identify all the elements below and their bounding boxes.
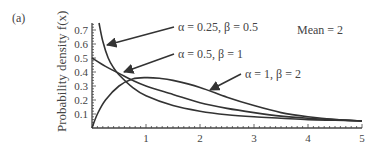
x-tick-label: 1: [143, 132, 149, 144]
y-tick-label: 0.4: [74, 66, 88, 78]
curve-label: α = 1, β = 2: [245, 67, 301, 81]
y-tick-label: 0.6: [74, 38, 88, 50]
y-tick-label: 0.7: [74, 24, 88, 36]
x-tick-label: 5: [359, 132, 365, 144]
y-tick-label: 0.3: [74, 80, 88, 92]
mean-annotation: Mean = 2: [297, 23, 343, 37]
axes: 123450.10.20.30.40.50.60.7: [74, 23, 365, 144]
curve-label: α = 0.5, β = 1: [178, 47, 243, 61]
y-tick-label: 0.1: [74, 108, 88, 120]
arrow-icon: [210, 74, 241, 90]
density-curve: [99, 23, 362, 121]
x-tick-label: 4: [305, 132, 311, 144]
y-axis-label: Probability density f(x): [54, 11, 69, 132]
arrow-icon: [124, 54, 174, 72]
probability-density-chart: (a) Probability density f(x) 123450.10.2…: [0, 0, 379, 151]
x-tick-label: 2: [197, 132, 203, 144]
y-tick-label: 0.5: [74, 52, 88, 64]
curve-label: α = 0.25, β = 0.5: [178, 20, 258, 34]
curve-labels: α = 0.25, β = 0.5α = 0.5, β = 1α = 1, β …: [107, 20, 301, 90]
y-tick-label: 0.2: [74, 94, 88, 106]
arrow-icon: [107, 27, 174, 45]
density-curve: [92, 58, 362, 121]
x-tick-label: 3: [251, 132, 257, 144]
panel-label: (a): [12, 11, 25, 25]
